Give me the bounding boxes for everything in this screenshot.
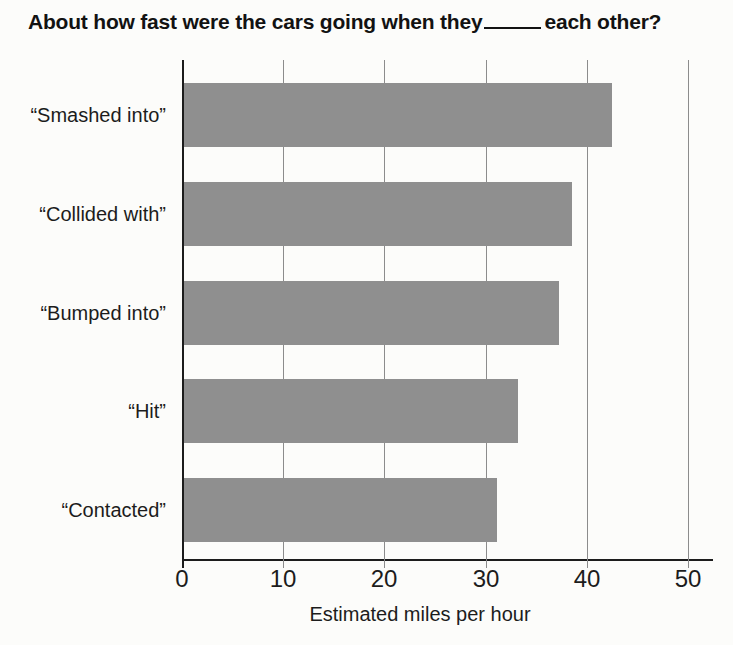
bar-5: [184, 478, 497, 542]
tick-label-50: 50: [675, 565, 702, 593]
bar-2: [184, 182, 572, 246]
tick-label-40: 40: [574, 565, 601, 593]
bar-4: [184, 379, 518, 443]
tick-label-10: 10: [270, 565, 297, 593]
category-label-1: “Smashed into”: [0, 83, 166, 147]
category-label-4: “Hit”: [0, 379, 166, 443]
plot-area: [182, 60, 713, 561]
category-label-2: “Collided with”: [0, 182, 166, 246]
tick-label-20: 20: [371, 565, 398, 593]
tick-label-30: 30: [473, 565, 500, 593]
tick-label-0: 0: [175, 565, 188, 593]
x-axis-title: Estimated miles per hour: [170, 603, 670, 626]
chart-question-title: About how fast were the cars going when …: [28, 10, 661, 34]
gridline-50: [688, 60, 689, 568]
bar-3: [184, 281, 559, 345]
title-suffix: each other?: [544, 10, 661, 33]
title-prefix: About how fast were the cars going when …: [28, 10, 482, 33]
title-blank-line: [484, 27, 541, 29]
axis-tick-zero: [182, 559, 184, 568]
bar-1: [184, 83, 612, 147]
category-label-3: “Bumped into”: [0, 281, 166, 345]
category-label-5: “Contacted”: [0, 478, 166, 542]
